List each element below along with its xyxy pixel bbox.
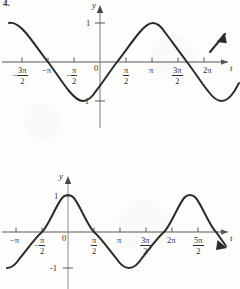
cosine-curve-svg xyxy=(0,142,240,289)
y-axis-label: y xyxy=(59,172,63,181)
problem-number: 4. xyxy=(3,0,10,8)
x-tick-label-3pi-over-2: 3π 2 xyxy=(140,236,151,255)
minus-sign: − xyxy=(67,71,72,80)
x-axis-ticks xyxy=(22,58,204,63)
x-tick-label-neg-pi-over-2: − π 2 xyxy=(39,236,45,255)
y-axis-label: y xyxy=(92,1,96,10)
origin-label: 0 xyxy=(62,234,66,243)
fraction-numerator: π xyxy=(91,236,97,246)
x-tick-label-neg-pi: −π xyxy=(10,236,19,245)
x-tick-label-pi-over-2: π 2 xyxy=(91,236,97,255)
x-tick-label-5pi-over-2: 5π 2 xyxy=(193,236,204,255)
y-tick-label-1: 1 xyxy=(54,192,58,201)
x-tick-label-neg-3pi-over-2: − 3π 2 xyxy=(17,66,28,85)
minus-sign: − xyxy=(13,71,18,80)
x-tick-label-2pi: 2π xyxy=(167,236,176,245)
y-tick-label-neg1: -1 xyxy=(50,264,57,273)
x-axis xyxy=(2,229,228,235)
origin-label: 0 xyxy=(94,64,98,73)
fraction-denominator: 2 xyxy=(17,76,28,85)
x-tick-label-2pi: 2π xyxy=(203,66,212,75)
x-tick-label-3pi-over-2: 3π 2 xyxy=(172,66,183,85)
fraction-numerator: 3π xyxy=(17,66,28,76)
sine-curve-figure: y t 0 1 -1 − 3π 2 −π − π 2 π 2 π 3π 2 2π xyxy=(0,0,240,145)
fraction-numerator: π xyxy=(39,236,45,246)
fraction-denominator: 2 xyxy=(123,76,129,85)
fraction-denominator: 2 xyxy=(39,246,45,255)
fraction-denominator: 2 xyxy=(193,246,204,255)
y-tick-label-1: 1 xyxy=(86,19,90,28)
x-tick-label-pi: π xyxy=(149,66,153,75)
x-tick-label-neg-pi: −π xyxy=(42,66,51,75)
x-axis-label: t xyxy=(230,234,233,243)
fraction-denominator: 2 xyxy=(91,246,97,255)
fraction-denominator: 2 xyxy=(140,246,151,255)
fraction-numerator: π xyxy=(123,66,129,76)
y-tick-label-neg1: -1 xyxy=(82,97,89,106)
minus-sign: − xyxy=(35,241,40,250)
fraction-numerator: 3π xyxy=(140,236,151,246)
fraction-numerator: π xyxy=(71,66,77,76)
fraction-numerator: 3π xyxy=(172,66,183,76)
x-axis-label: t xyxy=(230,64,233,73)
x-tick-label-pi-over-2: π 2 xyxy=(123,66,129,85)
fraction-denominator: 2 xyxy=(71,76,77,85)
x-tick-label-neg-pi-over-2: − π 2 xyxy=(71,66,77,85)
fraction-numerator: 5π xyxy=(193,236,204,246)
cosine-curve-figure: y t 0 1 -1 −π − π 2 π 2 π 3π 2 2π 5π 2 xyxy=(0,142,240,289)
x-tick-label-pi: π xyxy=(117,236,121,245)
fraction-denominator: 2 xyxy=(172,76,183,85)
